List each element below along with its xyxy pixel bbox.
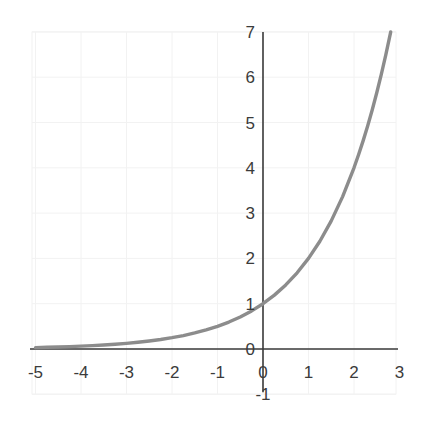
y-tick-label-6: 6 bbox=[246, 69, 255, 86]
exponential-curve bbox=[36, 32, 391, 348]
y-tick-label-7: 7 bbox=[246, 23, 255, 40]
y-tick-label-0: 0 bbox=[246, 341, 255, 358]
x-tick-label-2: 2 bbox=[349, 364, 358, 381]
chart-canvas bbox=[0, 0, 424, 423]
x-tick-label-neg2: -2 bbox=[164, 364, 179, 381]
x-tick-label-1: 1 bbox=[304, 364, 313, 381]
y-tick-label-4: 4 bbox=[246, 159, 255, 176]
y-tick-label-1: 1 bbox=[246, 295, 255, 312]
horizontal-gridlines bbox=[32, 32, 396, 394]
x-tick-label-neg1: -1 bbox=[210, 364, 225, 381]
x-tick-label-neg5: -5 bbox=[28, 364, 43, 381]
x-tick-label-0: 0 bbox=[258, 364, 267, 381]
axes-group bbox=[30, 32, 398, 392]
x-tick-label-neg3: -3 bbox=[119, 364, 134, 381]
y-tick-label-neg1: -1 bbox=[255, 386, 270, 403]
y-tick-label-3: 3 bbox=[246, 205, 255, 222]
gridlines-group bbox=[32, 32, 396, 394]
x-tick-label-neg4: -4 bbox=[73, 364, 88, 381]
y-tick-label-2: 2 bbox=[246, 250, 255, 267]
y-tick-label-5: 5 bbox=[246, 114, 255, 131]
x-tick-label-3: 3 bbox=[395, 364, 404, 381]
exponential-function-chart: -5-4-3-2-10123 -101234567 bbox=[0, 0, 424, 423]
